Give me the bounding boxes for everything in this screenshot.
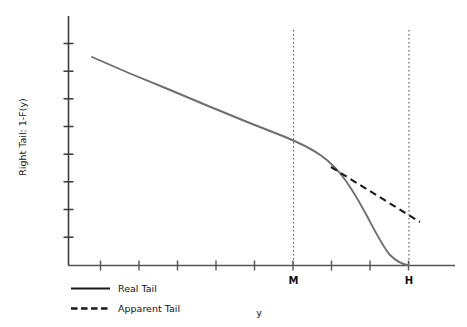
x-tick-label-m: M	[289, 275, 299, 286]
x-axis-label: y	[256, 307, 262, 318]
legend-label-real-tail: Real Tail	[118, 283, 157, 294]
chart-container: M H Right Tail: 1-F(y) y Real Tail Appar…	[0, 0, 467, 327]
series-real-tail	[92, 57, 409, 266]
y-axis-label: Right Tail: 1-F(y)	[17, 98, 28, 176]
legend-label-apparent-tail: Apparent Tail	[118, 303, 180, 314]
series-apparent-tail	[331, 167, 420, 222]
chart-legend: Real Tail Apparent Tail	[71, 283, 180, 314]
x-tick-label-h: H	[405, 275, 413, 286]
chart-plot-area: M H Right Tail: 1-F(y) y Real Tail Appar…	[0, 0, 467, 327]
